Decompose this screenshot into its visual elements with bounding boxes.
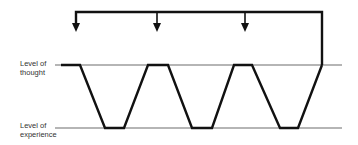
down-arrow-icon <box>153 23 161 32</box>
thought-experience-diagram: Level of thought Level of experience <box>0 0 358 145</box>
thought-experience-zigzag <box>61 65 322 128</box>
level-of-experience-label: Level of experience <box>20 121 57 139</box>
down-arrow-icon <box>72 23 80 32</box>
feedback-bracket <box>76 12 322 65</box>
down-arrow-icon <box>241 23 249 32</box>
level-of-thought-label: Level of thought <box>20 59 46 77</box>
